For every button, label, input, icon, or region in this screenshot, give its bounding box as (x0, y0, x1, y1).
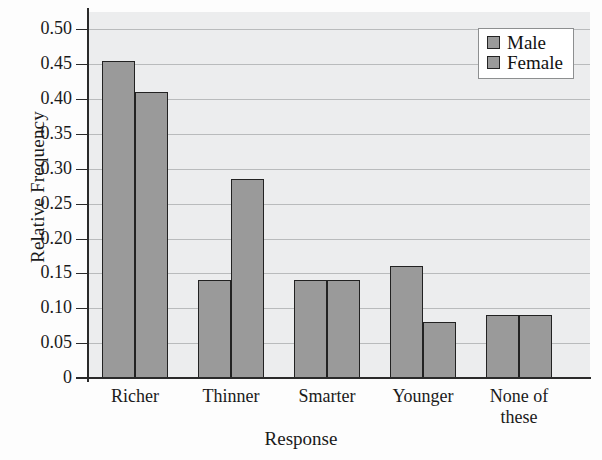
y-axis-tick-label: 0.50 (6, 18, 72, 39)
y-axis-tick-label: 0.40 (6, 88, 72, 109)
y-axis-tick-label: 0.10 (6, 297, 72, 318)
bar (390, 266, 423, 378)
y-axis-tick-label: 0.05 (6, 332, 72, 353)
y-axis-tick-label: 0.15 (6, 262, 72, 283)
x-axis-line (76, 377, 591, 379)
legend-item-female: Female (487, 53, 563, 73)
chart-figure: Relative Frequency 00.050.100.150.200.25… (0, 0, 602, 460)
x-axis-category-label: None ofthese (459, 386, 579, 427)
bar (198, 280, 231, 378)
x-axis-category-label-line: these (459, 407, 579, 428)
legend-item-male: Male (487, 33, 563, 53)
bar (135, 92, 168, 378)
bar (294, 280, 327, 378)
legend-label-male: Male (507, 33, 546, 53)
y-axis-tick-label: 0 (6, 367, 72, 388)
y-axis-tick-label: 0.20 (6, 228, 72, 249)
y-axis-tick-label: 0.30 (6, 158, 72, 179)
y-axis-tick-label: 0.25 (6, 193, 72, 214)
y-axis-tick-label: 0.35 (6, 123, 72, 144)
x-axis-title: Response (0, 428, 602, 450)
bar (423, 322, 456, 378)
legend-swatch-female (487, 56, 500, 69)
x-axis-category-label-line: None of (459, 386, 579, 407)
bar (102, 61, 135, 378)
bar (231, 179, 264, 378)
y-axis-tick-label: 0.45 (6, 53, 72, 74)
y-axis-line (87, 8, 89, 382)
legend-label-female: Female (507, 53, 563, 73)
legend-swatch-male (487, 36, 500, 49)
bar (486, 315, 519, 378)
legend: Male Female (478, 28, 574, 79)
bar (327, 280, 360, 378)
bar (519, 315, 552, 378)
